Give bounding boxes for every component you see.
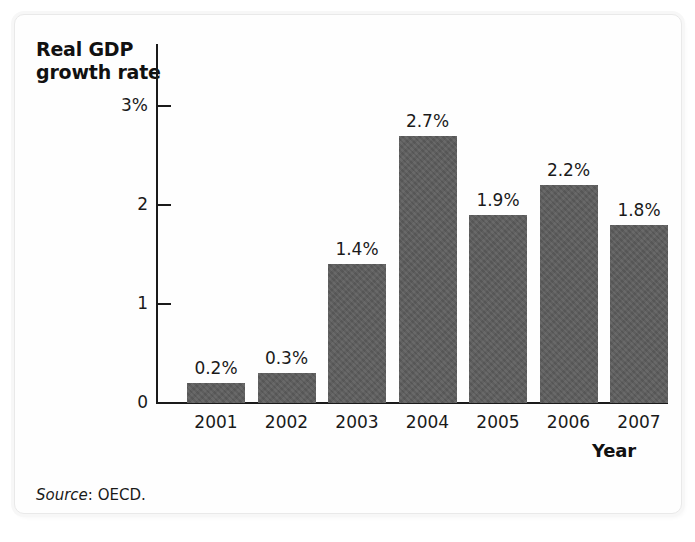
bar-2003 [328, 264, 386, 403]
bar-value-label-2004: 2.7% [388, 111, 468, 131]
source-note: Source: OECD. [36, 486, 146, 504]
x-category-label-2001: 2001 [176, 412, 256, 432]
y-axis-title-line-1: Real GDP [36, 38, 166, 61]
source-label: Source [36, 486, 88, 504]
bar-value-label-2002: 0.3% [247, 348, 327, 368]
bar-value-label-2007: 1.8% [599, 200, 679, 220]
y-tick-label-2: 2 [92, 194, 148, 214]
bar-value-label-2003: 1.4% [317, 239, 397, 259]
bar-value-label-2001: 0.2% [176, 358, 256, 378]
bar-chart-plot-area: Real GDP growth rate 0123% 0.2%20010.3%2… [0, 0, 695, 542]
y-tick-label-0: 0 [92, 392, 148, 412]
bar-2004 [399, 136, 457, 403]
bar-2006 [540, 185, 598, 403]
figure-container: Real GDP growth rate 0123% 0.2%20010.3%2… [0, 0, 695, 542]
bar-2001 [187, 383, 245, 403]
bar-2002 [258, 373, 316, 403]
y-tick-mark-3% [158, 105, 171, 107]
x-category-label-2003: 2003 [317, 412, 397, 432]
x-category-label-2004: 2004 [388, 412, 468, 432]
x-category-label-2002: 2002 [247, 412, 327, 432]
y-tick-mark-1 [158, 303, 171, 305]
bar-2005 [469, 215, 527, 403]
y-axis-line [156, 44, 158, 404]
x-category-label-2006: 2006 [529, 412, 609, 432]
y-tick-mark-0 [158, 402, 171, 404]
y-axis-title: Real GDP growth rate [36, 38, 166, 84]
x-category-label-2005: 2005 [458, 412, 538, 432]
x-category-label-2007: 2007 [599, 412, 679, 432]
y-tick-mark-2 [158, 204, 171, 206]
y-axis-title-line-2: growth rate [36, 61, 166, 84]
y-tick-label-3%: 3% [92, 95, 148, 115]
source-value: : OECD. [88, 486, 146, 504]
x-axis-title: Year [592, 440, 636, 462]
bar-2007 [610, 225, 668, 403]
y-tick-label-1: 1 [92, 293, 148, 313]
bar-value-label-2006: 2.2% [529, 160, 609, 180]
bar-value-label-2005: 1.9% [458, 190, 538, 210]
